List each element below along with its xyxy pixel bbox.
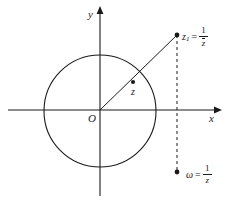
ray-origin-to-z1 [100, 35, 177, 110]
origin-label: O [88, 113, 96, 124]
complex-plane-figure: y x O z z1 = 1 z ω = 1 z [0, 0, 232, 206]
point-z1-label: z1 = 1 z [182, 26, 208, 48]
point-omega-label: ω = 1 z [186, 164, 212, 185]
point-z1-numerator: 1 [199, 26, 208, 36]
point-z1-fraction: 1 z [199, 26, 208, 48]
point-z1 [175, 33, 180, 38]
point-z-label: z [131, 87, 135, 97]
point-z [131, 80, 135, 84]
point-omega-denominator: z [203, 175, 211, 185]
point-omega-fraction: 1 z [203, 164, 212, 185]
conjugate-overbar-icon: z [202, 38, 206, 48]
point-omega-numerator: 1 [203, 164, 212, 174]
y-axis-arrowhead [97, 6, 104, 14]
point-z1-label-equals: = [191, 32, 197, 42]
point-z1-denominator: z [200, 37, 208, 48]
y-axis-label: y [88, 9, 93, 20]
x-axis-label: x [209, 113, 214, 124]
point-omega-label-lhs: ω [186, 170, 193, 180]
x-axis-arrowhead [214, 107, 222, 114]
point-omega [175, 170, 180, 175]
point-omega-label-equals: = [195, 170, 201, 180]
point-z1-label-subscript: 1 [186, 36, 190, 43]
